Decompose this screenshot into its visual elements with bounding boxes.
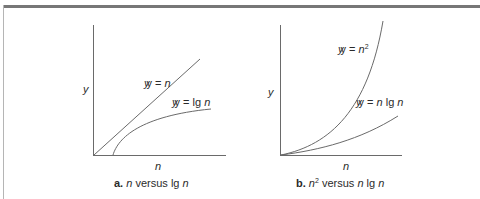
caption-b: b. n2 versus n lg n [296,178,384,189]
label-var: n [165,77,171,89]
label-var: n [397,96,403,108]
caption-text: lg [364,177,379,189]
panel-a-graph [93,25,226,156]
caption-letter: a. [114,177,123,189]
panel-b-graph [280,21,402,156]
panel-a-y-axis-label: y [83,84,89,95]
label-text: y = lg [175,96,205,108]
label-text: y = [147,77,165,89]
curve-y-equals-lg-n [113,109,211,155]
caption-text: versus [319,177,358,189]
caption-var: n [183,177,189,189]
caption-var: n [378,177,384,189]
label-y-equals-n-lg-n: yy = n lg n [356,97,403,108]
panel-b-x-axis-label: n [343,161,349,172]
plots-canvas [0,0,480,199]
label-text: lg [383,96,398,108]
label-text: y = [341,43,359,55]
curve-y-equals-n-lg-n [281,116,398,155]
panel-b-y-axis-label: y [268,87,274,98]
label-y-equals-n-squared: yy = n2 [338,44,369,55]
label-y-equals-lg-n: yy = lg n [172,97,210,108]
label-y-equals-n: yy = n [144,78,171,89]
panel-a-x-axis-label: n [155,161,161,172]
caption-a: a. n versus lg n [114,178,189,189]
caption-text: versus lg [132,177,182,189]
caption-letter: b. [296,177,306,189]
label-sup: 2 [365,43,369,50]
label-text: y = [359,96,377,108]
label-var: n [204,96,210,108]
curve-y-equals-n-squared [281,21,383,155]
